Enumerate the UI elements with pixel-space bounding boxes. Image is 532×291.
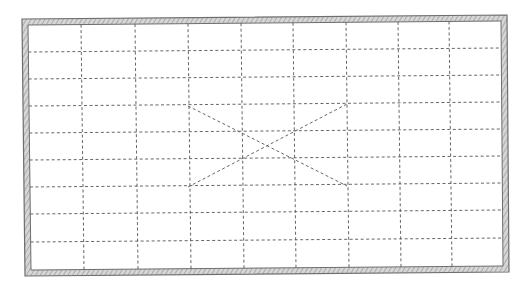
cross-mark-diagonal [188, 104, 347, 187]
grid-line-horizontal [30, 156, 502, 160]
cross-mark [188, 104, 347, 187]
grid-line-horizontal [28, 48, 501, 52]
grid-line-vertical [449, 21, 452, 266]
grid-line-vertical [398, 22, 401, 267]
grid-line-vertical [346, 22, 349, 267]
grid-line-horizontal [29, 129, 502, 133]
grid-line-horizontal [30, 210, 502, 214]
grid-line-horizontal [29, 75, 502, 79]
grid-line-vertical [241, 23, 244, 268]
grid-line-horizontal [31, 238, 503, 242]
hatched-frame [22, 15, 509, 276]
grid-line-vertical [293, 23, 296, 268]
drawing-group [22, 15, 509, 276]
grid-line-vertical [188, 24, 191, 269]
framed-grid-diagram [0, 0, 532, 291]
grid-line-horizontal [29, 102, 502, 106]
grid-line-vertical [135, 24, 138, 269]
grid-line-vertical [81, 25, 84, 270]
frame-inner-border [28, 21, 503, 270]
grid-line-horizontal [30, 183, 502, 187]
frame-outer-border [22, 15, 509, 276]
dashed-grid [28, 21, 502, 269]
